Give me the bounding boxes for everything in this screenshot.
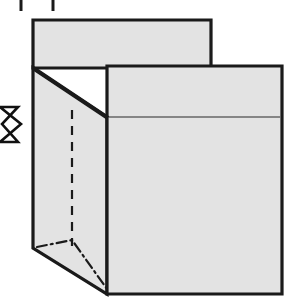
front-panel — [107, 66, 282, 294]
figure-container: Box fold instruction diagram Line-art in… — [0, 0, 287, 304]
top-flap-panel — [33, 20, 211, 68]
box-fold-diagram: Box fold instruction diagram Line-art in… — [0, 0, 287, 304]
